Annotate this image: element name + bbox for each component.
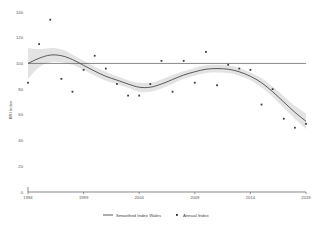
chart-figure: 199419992004200920142019 020406080100120… <box>0 0 321 239</box>
legend-square-swatch <box>176 214 178 216</box>
chart-legend: Smoothed Index WalesAnnual Index <box>103 213 209 218</box>
y-tick-label: 140 <box>16 10 24 15</box>
legend-label-annual: Annual Index <box>183 213 209 218</box>
y-tick-label: 40 <box>18 138 23 143</box>
y-axis-title: BRI Index <box>8 100 13 119</box>
data-point <box>105 68 107 70</box>
data-point <box>183 60 185 62</box>
x-tick-label: 2009 <box>190 195 200 200</box>
data-point <box>38 43 40 45</box>
y-tick-label: 20 <box>18 164 23 169</box>
data-point <box>205 51 207 53</box>
data-point <box>116 83 118 85</box>
y-tick-label: 100 <box>16 61 24 66</box>
index-time-series-chart: 199419992004200920142019 020406080100120… <box>0 0 321 239</box>
data-point <box>60 78 62 80</box>
data-point <box>250 69 252 71</box>
data-point <box>305 123 307 125</box>
chart-background <box>0 0 321 239</box>
data-point <box>272 88 274 90</box>
data-point <box>94 55 96 57</box>
data-point <box>283 118 285 120</box>
x-tick-label: 1994 <box>23 195 33 200</box>
data-point <box>127 95 129 97</box>
data-point <box>294 127 296 129</box>
data-point <box>72 91 74 93</box>
y-tick-label: 60 <box>18 112 23 117</box>
y-tick-label: 120 <box>16 35 24 40</box>
data-point <box>227 64 229 66</box>
data-point <box>161 60 163 62</box>
x-tick-label: 1999 <box>79 195 89 200</box>
data-point <box>49 19 51 21</box>
x-tick-label: 2019 <box>301 195 311 200</box>
x-tick-label: 2014 <box>246 195 256 200</box>
data-point <box>194 82 196 84</box>
data-point <box>149 83 151 85</box>
data-point <box>216 84 218 86</box>
x-tick-label: 2004 <box>135 195 145 200</box>
data-point <box>138 95 140 97</box>
legend-label-smoothed: Smoothed Index Wales <box>116 213 162 218</box>
data-point <box>238 68 240 70</box>
data-point <box>83 69 85 71</box>
y-tick-label: 80 <box>18 87 23 92</box>
data-point <box>27 82 29 84</box>
data-point <box>261 104 263 106</box>
data-point <box>172 91 174 93</box>
